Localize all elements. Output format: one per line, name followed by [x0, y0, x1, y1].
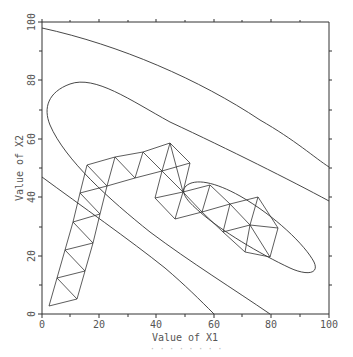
- x-tick-40: 40: [150, 319, 162, 330]
- x-tick-100: 100: [320, 319, 338, 330]
- y-tick-20: 20: [26, 250, 37, 262]
- x-tick-60: 60: [208, 319, 220, 330]
- y-tick-labels: 0 20 40 60 80 100: [26, 13, 37, 317]
- x-tick-80: 80: [265, 319, 277, 330]
- outer-contour-upper: [42, 28, 329, 167]
- y-tick-40: 40: [26, 191, 37, 203]
- y-tick-80: 80: [26, 74, 37, 86]
- contour-plot: 0 20 40 60 80 100 0 20 40 60 80 100 Valu…: [0, 0, 353, 357]
- x-tick-0: 0: [39, 319, 45, 330]
- x-axis-label: Value of X1: [152, 332, 218, 343]
- outer-ellipse: [47, 82, 329, 314]
- tick-marks: [38, 19, 332, 318]
- y-tick-60: 60: [26, 133, 37, 145]
- x-tick-20: 20: [93, 319, 105, 330]
- y-tick-0: 0: [26, 311, 37, 317]
- x-tick-labels: 0 20 40 60 80 100: [39, 319, 338, 330]
- y-axis-label: Value of X2: [14, 135, 25, 201]
- truss-structure: [49, 143, 278, 306]
- caption-fragment: · · · · · · · ·: [150, 345, 222, 354]
- y-tick-100: 100: [26, 13, 37, 31]
